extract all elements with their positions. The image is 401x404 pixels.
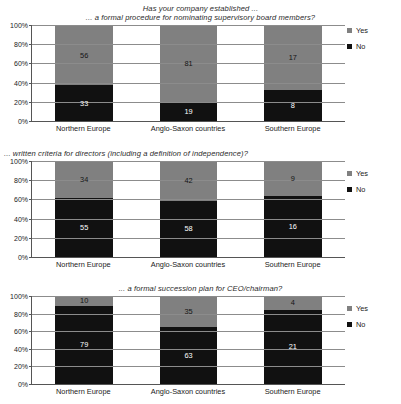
bar-segment-no[interactable]: 79	[55, 306, 113, 384]
grid-area-2: 34554258916	[31, 161, 345, 257]
y-tick-label: 80%	[14, 310, 28, 317]
bar-value-label: 21	[289, 343, 297, 350]
y-tick	[29, 25, 32, 26]
x-tick-label: Northern Europe	[35, 260, 132, 269]
chart-panel-3: ... a formal succession plan for CEO/cha…	[0, 278, 401, 404]
y-tick-label: 60%	[14, 196, 28, 203]
y-tick-label: 80%	[14, 177, 28, 184]
y-tick	[29, 180, 32, 181]
bar-group-1: 56338119178	[32, 25, 345, 121]
y-axis-labels-1: 100%80%60%40%20%0%	[0, 25, 30, 121]
x-axis-labels-3: Northern EuropeAnglo-Saxon countriesSout…	[31, 384, 345, 396]
gridline	[32, 83, 345, 84]
y-tick-label: 20%	[14, 363, 28, 370]
legend-2: Yes No	[347, 169, 397, 201]
bar-segment-no[interactable]: 8	[264, 90, 322, 121]
gridline	[32, 238, 345, 239]
bar-segment-yes[interactable]: 56	[55, 25, 113, 85]
plot-area-1: 100%80%60%40%20%0% 56338119178 Northern …	[0, 25, 401, 121]
y-tick	[29, 296, 32, 297]
bar-segment-no[interactable]: 63	[160, 327, 218, 384]
x-tick-label: Anglo-Saxon countries	[139, 387, 236, 396]
legend-label-yes: Yes	[356, 304, 368, 313]
bar-value-label: 56	[80, 52, 88, 59]
gridline	[32, 25, 345, 26]
gridline	[32, 102, 345, 103]
y-tick	[29, 349, 32, 350]
legend-swatch-no-icon	[347, 44, 352, 49]
bar-segment-yes[interactable]: 10	[55, 296, 113, 306]
y-tick	[29, 314, 32, 315]
y-tick-label: 20%	[14, 98, 28, 105]
plot-area-3: 100%80%60%40%20%0% 10793563421 Northern …	[0, 296, 401, 384]
bar-value-label: 4	[291, 299, 295, 306]
legend-swatch-no-icon	[347, 187, 352, 192]
stacked-bar[interactable]: 421	[264, 296, 322, 384]
y-tick	[29, 366, 32, 367]
stacked-bar[interactable]: 3563	[160, 296, 218, 384]
bar-segment-no[interactable]: 19	[160, 103, 218, 121]
bar-segment-yes[interactable]: 4	[264, 296, 322, 310]
bar-group-2: 34554258916	[32, 161, 345, 257]
legend-item-no: No	[347, 42, 397, 51]
gridline	[32, 44, 345, 45]
panel-2-title: ... written criteria for directors (incl…	[0, 143, 401, 158]
bar-value-label: 79	[80, 341, 88, 348]
panel-1-title: ... a formal procedure for nominating su…	[0, 13, 401, 22]
y-tick-label: 20%	[14, 234, 28, 241]
y-tick-label: 0%	[18, 254, 28, 261]
gridline	[32, 199, 345, 200]
bar-segment-no[interactable]: 55	[55, 198, 113, 257]
stacked-bar[interactable]: 8119	[160, 25, 218, 121]
bar-value-label: 81	[184, 60, 192, 67]
gridline	[32, 331, 345, 332]
y-tick-label: 40%	[14, 215, 28, 222]
stacked-bar[interactable]: 4258	[160, 161, 218, 257]
x-tick-label: Anglo-Saxon countries	[139, 260, 236, 269]
legend-label-yes: Yes	[356, 169, 368, 178]
chart-page: Has your company established ... ... a f…	[0, 0, 401, 404]
stacked-bar[interactable]: 178	[264, 25, 322, 121]
plot-area-2: 100%80%60%40%20%0% 34554258916 Northern …	[0, 161, 401, 257]
legend-label-no: No	[356, 42, 365, 51]
bar-segment-no[interactable]: 33	[55, 85, 113, 121]
legend-swatch-yes-icon	[347, 306, 352, 311]
y-tick-label: 100%	[10, 293, 28, 300]
stacked-bar[interactable]: 916	[264, 161, 322, 257]
bar-value-label: 34	[80, 176, 88, 183]
bar-group-3: 10793563421	[32, 296, 345, 384]
legend-label-no: No	[356, 185, 365, 194]
bar-segment-no[interactable]: 16	[264, 196, 322, 257]
y-tick	[29, 63, 32, 64]
bar-value-label: 58	[184, 225, 192, 232]
x-tick-label: Northern Europe	[35, 124, 132, 133]
bar-segment-yes[interactable]: 17	[264, 25, 322, 90]
y-axis-labels-3: 100%80%60%40%20%0%	[0, 296, 30, 384]
chart-panel-2: ... written criteria for directors (incl…	[0, 143, 401, 278]
bar-value-label: 35	[184, 308, 192, 315]
stacked-bar[interactable]: 3455	[55, 161, 113, 257]
gridline	[32, 366, 345, 367]
bar-segment-yes[interactable]: 9	[264, 161, 322, 196]
y-tick	[29, 331, 32, 332]
y-tick-label: 60%	[14, 328, 28, 335]
bar-value-label: 17	[289, 54, 297, 61]
x-tick-label: Northern Europe	[35, 387, 132, 396]
y-tick-label: 0%	[18, 381, 28, 388]
bar-segment-yes[interactable]: 35	[160, 296, 218, 327]
bar-value-label: 42	[184, 177, 192, 184]
legend-item-yes: Yes	[347, 169, 397, 178]
bar-value-label: 8	[291, 102, 295, 109]
x-tick-label: Southern Europe	[244, 124, 341, 133]
gridline	[32, 296, 345, 297]
y-tick	[29, 219, 32, 220]
stacked-bar[interactable]: 5633	[55, 25, 113, 121]
y-tick-label: 80%	[14, 41, 28, 48]
bar-segment-no[interactable]: 21	[264, 310, 322, 384]
chart-panel-1: Has your company established ... ... a f…	[0, 0, 401, 143]
legend-label-yes: Yes	[356, 26, 368, 35]
y-tick-label: 40%	[14, 79, 28, 86]
legend-item-no: No	[347, 185, 397, 194]
bar-segment-no[interactable]: 58	[160, 201, 218, 257]
stacked-bar[interactable]: 1079	[55, 296, 113, 384]
